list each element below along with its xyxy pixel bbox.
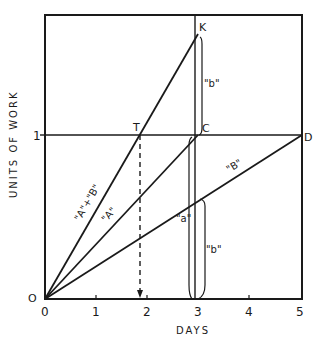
line-b-label: "B" <box>224 157 243 175</box>
segment-b-bottom-bracket <box>198 199 205 299</box>
y-axis-title: UNITS OF WORK <box>8 91 19 198</box>
origin-label: O <box>28 292 37 305</box>
segment-b-top-label: "b" <box>204 78 220 89</box>
x-tick-label-2: 2 <box>143 305 151 319</box>
x-tick-label-1: 1 <box>92 305 100 319</box>
x-tick-label-5: 5 <box>296 305 304 319</box>
line-a-label: "A" <box>99 205 118 224</box>
segment-a-label: "a" <box>176 213 191 224</box>
x-tick-label-0: 0 <box>41 305 49 319</box>
line-a-plus-b <box>45 34 198 299</box>
x-tick-label-3: 3 <box>194 305 202 319</box>
point-d-label: D <box>304 131 312 144</box>
line-a-plus-b-label: "A"+"B" <box>72 182 102 223</box>
point-t-label: T <box>132 121 140 134</box>
y-tick-label-1: 1 <box>33 129 41 143</box>
x-axis-title: DAYS <box>176 325 210 336</box>
x-tick-label-4: 4 <box>245 305 253 319</box>
t-arrowhead-icon <box>137 290 143 298</box>
work-days-diagram: K T C D O "b" "b" "a" "A"+"B" "A" "B" 1 … <box>0 0 320 343</box>
segment-b-top-bracket <box>199 37 202 135</box>
segment-b-bottom-label: "b" <box>206 244 222 255</box>
point-c-label: C <box>202 122 210 135</box>
point-k-label: K <box>199 21 207 34</box>
